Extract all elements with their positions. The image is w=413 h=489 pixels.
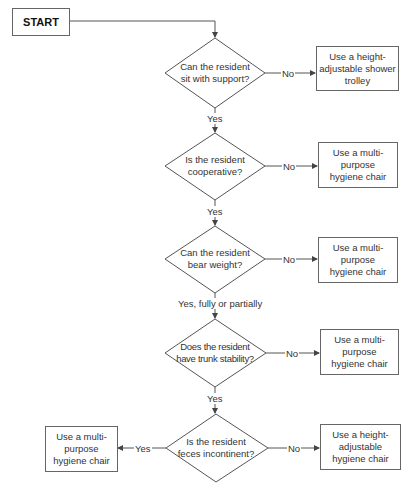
outcome-text: purpose — [330, 254, 387, 266]
yes-label: Yes, fully or partially — [177, 298, 263, 309]
outcome-text: Use a height- — [319, 51, 396, 63]
decision-trunk-stability: Does the residenthave trunk stability? — [160, 341, 270, 365]
decision-text: Can the resident — [165, 247, 265, 259]
outcome-text: Use a multi- — [331, 334, 388, 346]
outcome-text: trolley — [319, 75, 396, 87]
outcome-hygiene-chair: Use a multi-purposehygiene chair — [320, 329, 399, 375]
outcome-text: adjustable shower — [319, 63, 396, 75]
outcome-text: purpose — [331, 346, 388, 358]
outcome-text: purpose — [330, 159, 387, 171]
outcome-text: Use a height- — [332, 429, 389, 441]
outcome-shower-trolley: Use a height-adjustable showertrolley — [316, 46, 399, 91]
no-label: No — [282, 161, 296, 172]
yes-label: Yes — [134, 443, 152, 454]
no-label: No — [287, 443, 301, 454]
outcome-text: hygiene chair — [330, 171, 387, 183]
yes-label: Yes — [206, 393, 224, 404]
start-node: START — [12, 8, 70, 36]
decision-sit-with-support: Can the residentsit with support? — [165, 61, 265, 85]
outcome-text: hygiene chair — [330, 266, 387, 278]
decision-text: Does the resident — [160, 341, 270, 353]
no-label: No — [281, 68, 295, 79]
outcome-text: Use a multi- — [330, 147, 387, 159]
outcome-hygiene-chair: Use a multi-purposehygiene chair — [318, 237, 398, 283]
decision-text: Is the resident — [161, 436, 271, 448]
outcome-text: hygiene chair — [53, 455, 110, 467]
decision-feces-incontinent: Is the residentfeces incontinent? — [161, 436, 271, 460]
decision-text: sit with support? — [165, 73, 265, 85]
outcome-text: purpose — [53, 443, 110, 455]
outcome-text: hygiene chair — [331, 358, 388, 370]
decision-text: feces incontinent? — [161, 448, 271, 460]
decision-text: Can the resident — [165, 61, 265, 73]
outcome-text: adjustable — [332, 441, 389, 453]
outcome-text: Use a multi- — [53, 431, 110, 443]
outcome-hygiene-chair-yes: Use a multi-purposehygiene chair — [45, 426, 118, 472]
no-label: No — [285, 348, 299, 359]
outcome-height-adjustable-chair: Use a height-adjustablehygiene chair — [320, 424, 401, 470]
outcome-text: Use a multi- — [330, 242, 387, 254]
start-label: START — [23, 16, 59, 28]
outcome-hygiene-chair: Use a multi-purposehygiene chair — [318, 142, 398, 188]
yes-label: Yes — [206, 113, 224, 124]
decision-text: bear weight? — [165, 259, 265, 271]
yes-label: Yes — [206, 206, 224, 217]
no-label: No — [282, 254, 296, 265]
decision-text: Is the resident — [165, 154, 265, 166]
decision-cooperative: Is the residentcooperative? — [165, 154, 265, 178]
decision-bear-weight: Can the residentbear weight? — [165, 247, 265, 271]
outcome-text: hygiene chair — [332, 453, 389, 465]
decision-text: have trunk stability? — [160, 353, 270, 365]
decision-text: cooperative? — [165, 166, 265, 178]
